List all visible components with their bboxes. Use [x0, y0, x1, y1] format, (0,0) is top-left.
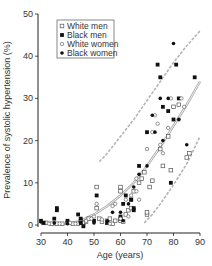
x-tick-label: 80: [168, 237, 178, 247]
data-point: [92, 215, 95, 218]
legend-marker-icon: [60, 33, 64, 37]
data-point: [95, 202, 98, 205]
data-point: [135, 190, 138, 193]
data-point: [177, 118, 181, 122]
data-point: [82, 224, 86, 228]
legend-marker-icon: [60, 51, 64, 55]
data-point: [58, 222, 61, 225]
data-point: [145, 164, 149, 168]
y-tick-label: 20: [23, 136, 33, 146]
data-point: [95, 206, 99, 210]
data-point: [151, 113, 155, 117]
data-point: [156, 122, 159, 125]
data-point: [55, 206, 59, 210]
data-point: [166, 109, 170, 113]
data-point: [108, 222, 111, 225]
data-point: [137, 198, 140, 201]
data-point: [145, 130, 149, 134]
data-point: [74, 222, 77, 225]
data-point: [153, 130, 157, 134]
data-point: [47, 222, 50, 225]
data-point: [137, 164, 141, 168]
data-point: [151, 179, 155, 183]
data-point: [124, 198, 127, 201]
data-point: [156, 63, 160, 67]
y-tick-label: 40: [23, 51, 33, 61]
data-point: [119, 185, 123, 189]
x-tick-label: 90: [195, 237, 205, 247]
data-point: [166, 97, 170, 101]
data-point: [52, 221, 56, 225]
y-tick-label: 0: [28, 220, 33, 230]
data-point: [84, 219, 87, 222]
data-point: [105, 219, 109, 223]
data-point: [158, 75, 162, 79]
data-point: [158, 147, 162, 151]
legend-marker-icon: [60, 24, 64, 28]
data-point: [143, 170, 147, 174]
data-point: [145, 147, 148, 150]
data-point: [177, 103, 181, 107]
data-point: [135, 177, 138, 180]
data-points: [39, 42, 197, 228]
y-tick-label: 10: [23, 178, 33, 188]
y-tick-label: 50: [23, 9, 33, 19]
legend-label: Black women: [67, 48, 118, 58]
data-point: [148, 185, 152, 189]
data-point: [140, 177, 144, 181]
x-axis-title: Age (years): [97, 250, 144, 260]
y-tick-label: 30: [23, 93, 33, 103]
x-tick-label: 30: [36, 237, 46, 247]
data-point: [158, 97, 162, 101]
data-point: [188, 151, 192, 155]
data-point: [95, 185, 99, 189]
x-tick-label: 40: [62, 237, 72, 247]
legend: White menBlack menWhite womenBlack women: [57, 20, 119, 58]
scatter-chart: 01020304050 30405060708090 Age (years) P…: [0, 0, 212, 266]
data-point: [193, 75, 197, 79]
data-point: [182, 105, 185, 108]
data-point: [76, 213, 80, 217]
data-point: [137, 173, 141, 177]
data-point: [166, 135, 170, 139]
data-point: [161, 105, 165, 109]
y-ticks: 01020304050: [23, 9, 38, 230]
data-point: [180, 97, 183, 100]
data-point: [161, 164, 165, 168]
data-point: [119, 211, 123, 215]
data-point: [95, 194, 99, 198]
data-point: [159, 143, 162, 146]
data-point: [161, 139, 165, 143]
data-point: [100, 218, 103, 221]
data-point: [92, 221, 96, 225]
data-point: [121, 202, 125, 206]
data-point: [137, 181, 141, 185]
x-tick-label: 70: [142, 237, 152, 247]
data-point: [132, 208, 136, 212]
x-ticks: 30405060708090: [36, 233, 205, 247]
data-point: [145, 211, 149, 215]
data-point: [79, 221, 83, 225]
data-point: [185, 156, 189, 160]
data-point: [52, 217, 56, 221]
x-tick-label: 50: [89, 237, 99, 247]
data-point: [119, 189, 123, 193]
data-point: [66, 222, 70, 226]
data-point: [174, 63, 178, 67]
data-point: [127, 215, 130, 218]
data-point: [132, 185, 136, 189]
data-point: [172, 105, 176, 109]
data-point: [161, 152, 164, 155]
data-point: [111, 211, 115, 215]
data-point: [114, 202, 117, 205]
data-point: [172, 118, 176, 122]
x-tick-label: 60: [115, 237, 125, 247]
data-point: [172, 42, 176, 46]
data-point: [185, 143, 189, 147]
data-point: [129, 198, 133, 202]
data-point: [169, 168, 173, 172]
data-point: [124, 194, 128, 198]
data-point: [39, 220, 43, 224]
data-point: [121, 219, 125, 223]
data-point: [113, 219, 117, 223]
